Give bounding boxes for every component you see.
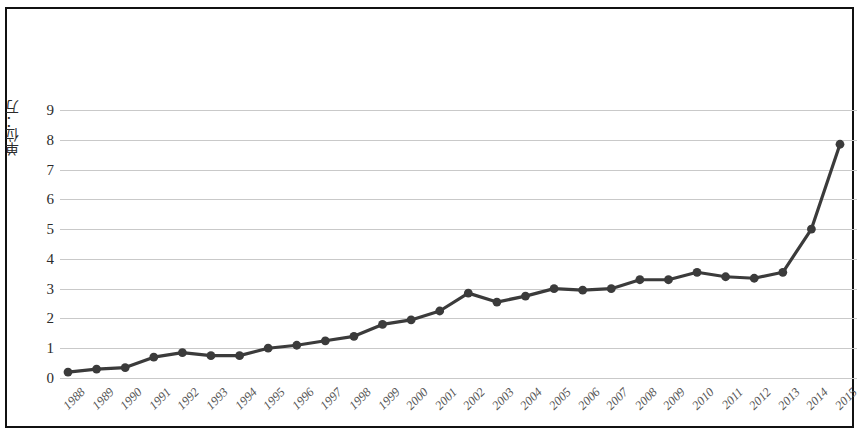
line-chart: 单位：万 0123456789 198819891990199119921993… [0,0,864,437]
x-axis-tick-labels: 1988198919901991199219931994199519961997… [0,0,864,437]
